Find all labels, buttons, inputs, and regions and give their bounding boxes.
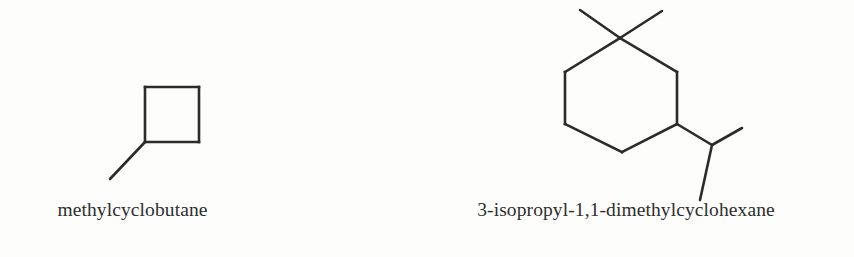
skeletal-drawing-cyclohexane — [430, 0, 854, 215]
bond-methyl-right — [620, 11, 662, 38]
cyclobutane-substituent-bonds — [110, 142, 145, 179]
ring-bond — [622, 124, 677, 152]
compound-label-methylcyclobutane: methylcyclobutane — [0, 200, 265, 220]
compound-label-dimethylcyclohexane: 3-isopropyl-1,1-dimethylcyclohexane — [398, 200, 854, 220]
cyclobutane-ring — [145, 87, 199, 142]
ring-bond — [565, 124, 622, 152]
cyclohexane-ring — [565, 38, 677, 152]
bond-isopropyl-methyl-up — [712, 128, 742, 145]
cyclohexane-substituent-bonds — [580, 10, 742, 200]
ring-bond — [565, 38, 620, 72]
bond-isopropyl-stem — [677, 124, 712, 145]
bond-methyl-left — [580, 10, 620, 38]
ring-bond — [620, 38, 677, 72]
bond-isopropyl-methyl-down — [700, 145, 712, 200]
bond-methyl — [110, 142, 145, 179]
chemistry-figure: methylcyclobutane 3-isopropyl-1,1-dimeth… — [0, 0, 854, 257]
skeletal-drawing-cyclobutane — [0, 0, 280, 200]
